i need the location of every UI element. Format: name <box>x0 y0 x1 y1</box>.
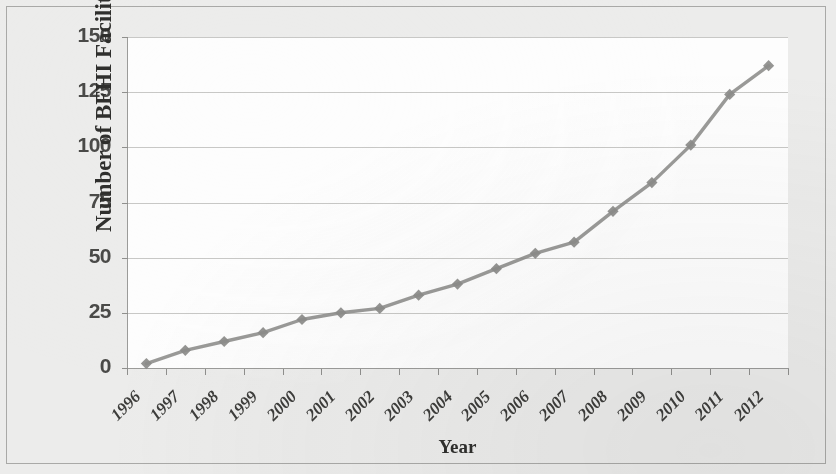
x-tick-mark <box>632 369 633 375</box>
y-tick-label: 25 <box>31 299 111 323</box>
gridline <box>127 147 788 148</box>
x-tick-mark <box>438 369 439 375</box>
x-tick-mark <box>594 369 595 375</box>
gridline <box>127 313 788 314</box>
y-axis-title: Number of BFHI Facilities <box>91 0 117 251</box>
x-tick-mark <box>749 369 750 375</box>
x-tick-mark <box>127 369 128 375</box>
x-tick-mark <box>788 369 789 375</box>
chart-figure: 0255075100125150 19961997199819992000200… <box>0 0 836 474</box>
gridline <box>127 92 788 93</box>
gridline <box>127 37 788 38</box>
x-tick-mark <box>477 369 478 375</box>
x-tick-mark <box>671 369 672 375</box>
x-tick-mark <box>399 369 400 375</box>
x-tick-mark <box>321 369 322 375</box>
x-tick-mark <box>283 369 284 375</box>
x-tick-mark <box>244 369 245 375</box>
x-tick-mark <box>710 369 711 375</box>
x-tick-mark <box>555 369 556 375</box>
x-axis-line <box>127 368 789 369</box>
x-tick-mark <box>516 369 517 375</box>
x-axis-title: Year <box>127 436 788 458</box>
x-tick-mark <box>166 369 167 375</box>
y-tick-mark <box>122 37 128 38</box>
x-tick-mark <box>205 369 206 375</box>
y-tick-mark <box>122 92 128 93</box>
gridline <box>127 203 788 204</box>
y-tick-mark <box>122 203 128 204</box>
gridline <box>127 258 788 259</box>
y-tick-mark <box>122 258 128 259</box>
x-tick-mark <box>360 369 361 375</box>
y-tick-mark <box>122 147 128 148</box>
y-tick-mark <box>122 313 128 314</box>
y-tick-label: 0 <box>31 354 111 378</box>
